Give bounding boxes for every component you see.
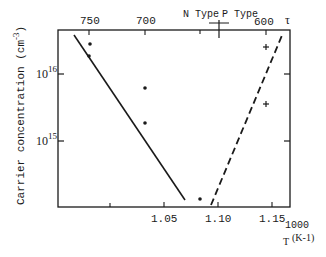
n-type-point: [87, 54, 91, 58]
x-tick-label-1.05: 1.05: [151, 213, 177, 225]
p-type-point: [263, 44, 269, 50]
n-type-point: [143, 86, 147, 90]
x-tick-label-1.10: 1.10: [205, 213, 231, 225]
p-type-annotation: P Type: [222, 9, 258, 20]
x-axis-unit-denominator: T: [283, 236, 289, 247]
n-type-point: [88, 42, 92, 46]
p-type-fit-line: [211, 33, 283, 205]
y-tick-label-16: 1016: [36, 64, 58, 81]
x-tick-label-1.15: 1.15: [259, 213, 285, 225]
n-type-annotation: N Type: [183, 9, 219, 20]
top-tick-label-700: 700: [136, 15, 156, 27]
n-type-point: [143, 121, 147, 125]
x-axis-unit-numerator: 1000: [285, 220, 309, 231]
plot-frame: [58, 30, 290, 207]
top-tick-label-750: 750: [80, 15, 100, 27]
top-axis-unit: τ: [285, 13, 290, 27]
n-type-fit-line: [74, 35, 185, 200]
n-type-point: [198, 197, 202, 201]
chart-canvas: 750 700 600 τ N Type P Type 1016 1015 Ca…: [0, 0, 326, 257]
x-axis-unit: (K-1): [292, 232, 314, 244]
y-tick-label-15: 1015: [36, 131, 58, 148]
y-axis-title: Carrier concentration (cm-3): [11, 26, 27, 205]
p-type-point: [263, 101, 269, 107]
